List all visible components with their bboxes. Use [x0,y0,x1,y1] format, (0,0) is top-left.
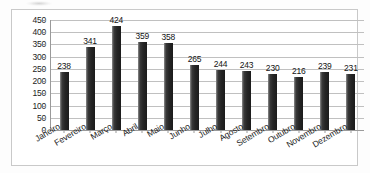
bar-slot: 341 [77,20,103,130]
bar-slot: 216 [286,20,312,130]
y-tick-mark-50 [43,118,46,119]
bar-value-label: 239 [318,62,332,71]
y-tick-mark-150 [43,93,46,94]
bar-slot: 230 [260,20,286,130]
bar-value-label: 216 [292,67,306,76]
bar-value-label: 358 [162,33,176,42]
y-tick-mark-350 [43,44,46,45]
bar-value-label: 238 [57,62,71,71]
bar[interactable]: 424 [112,26,121,130]
bar[interactable]: 341 [86,47,95,130]
x-axis-labels: JaneiroFevereiroMarçoAbrilMaioJunhoJulho… [39,122,353,162]
bar-slot: 358 [155,20,181,130]
bar[interactable]: 358 [164,43,173,131]
chart-screenshot: 050100150200250300350400450 238341424359… [0,0,370,173]
bar-value-label: 244 [214,60,228,69]
bar-value-label: 424 [109,16,123,25]
bar-slot: 238 [51,20,77,130]
bar-value-label: 341 [83,37,97,46]
bar-series: 238341424359358265244243230216239231 [51,20,364,130]
y-tick-mark-200 [43,81,46,82]
bar-slot: 243 [234,20,260,130]
bar-slot: 424 [103,20,129,130]
bar[interactable]: 359 [138,42,147,130]
bar-value-label: 359 [135,32,149,41]
bar[interactable]: 265 [190,65,199,130]
x-tick-label-março: Março [89,122,113,142]
bar-slot: 265 [181,20,207,130]
bar-value-label: 243 [240,61,254,70]
y-axis-labels: 050100150200250300350400450 [14,20,46,130]
bar-slot: 231 [338,20,364,130]
bar-value-label: 230 [266,64,280,73]
bar-slot: 244 [207,20,233,130]
bar-value-label: 265 [188,55,202,64]
bar-slot: 359 [129,20,155,130]
scan-artifact [26,1,52,6]
y-tick-mark-100 [43,106,46,107]
y-tick-mark-450 [43,20,46,21]
x-tick-label-abril: Abril [121,122,140,138]
y-tick-mark-300 [43,57,46,58]
x-tick-label-maio: Maio [146,122,166,139]
y-tick-mark-400 [43,32,46,33]
x-tick-label-julho: Julho [197,122,219,140]
y-tick-mark-250 [43,69,46,70]
plot-area: 050100150200250300350400450 238341424359… [50,20,364,130]
x-tick-label-junho: Junho [168,122,192,141]
bar-slot: 239 [312,20,338,130]
bar-value-label: 231 [344,64,358,73]
